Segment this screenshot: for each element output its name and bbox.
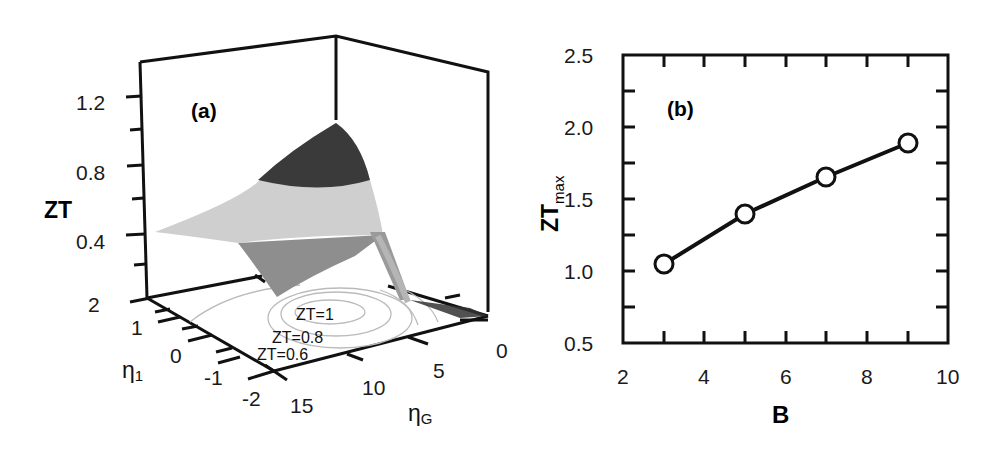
zt-surface: [155, 123, 410, 302]
x-tick-label: 2: [617, 365, 629, 388]
panel-b-label: (b): [667, 97, 694, 120]
eta1-tick-label: 2: [88, 293, 100, 316]
etaG-tick-label: 5: [433, 359, 445, 382]
contour-label: ZT=1: [296, 306, 334, 323]
y-tick-label: 1.0: [564, 260, 593, 283]
y-ticks: [623, 91, 948, 307]
etaG-axis-label: ηG: [408, 400, 432, 427]
y-axis-label: ZTmax: [537, 175, 567, 232]
z-axis-label: ZT: [44, 197, 72, 223]
z-tick-label: 1.2: [76, 91, 105, 114]
figure-canvas: 1.2 0.8 0.4 ZT: [0, 0, 998, 454]
etaG-tick-label: 10: [362, 376, 385, 399]
panel-a-label: (a): [191, 99, 217, 122]
contour-label: ZT=0.6: [257, 346, 308, 363]
data-point: [817, 168, 835, 186]
eta1-tick-label: -2: [242, 387, 261, 410]
y-tick-label: 0.5: [564, 332, 593, 355]
data-point: [655, 255, 673, 273]
x-axis-label: B: [772, 401, 789, 428]
z-tick-label: 0.8: [76, 161, 105, 184]
z-tick-label: 0.4: [76, 230, 106, 253]
data-line: [664, 143, 908, 264]
data-point: [899, 134, 917, 152]
contour-label: ZT=0.8: [272, 329, 323, 346]
y-tick-label: 2.0: [564, 116, 593, 139]
etaG-tick-label: 0: [496, 339, 508, 362]
x-tick-label: 4: [698, 365, 710, 388]
y-tick-label: 1.5: [564, 188, 593, 211]
panel-b: (b) 2.5 2.0 1.5 1.0 0.5 2 4 6 8 10 B ZTm…: [537, 44, 959, 428]
eta1-tick-label: 0: [170, 344, 182, 367]
x-tick-label: 8: [861, 365, 873, 388]
y-tick-label: 2.5: [564, 44, 593, 67]
eta1-tick-label: -1: [204, 366, 223, 389]
x-ticks: [664, 55, 908, 343]
eta1-tick-label: 1: [131, 316, 143, 339]
eta1-axis-label: η1: [122, 357, 143, 384]
x-tick-label: 10: [936, 365, 959, 388]
panel-a: 1.2 0.8 0.4 ZT: [44, 36, 508, 427]
x-tick-label: 6: [780, 365, 792, 388]
etaG-tick-label: 15: [290, 394, 313, 417]
data-point: [736, 205, 754, 223]
